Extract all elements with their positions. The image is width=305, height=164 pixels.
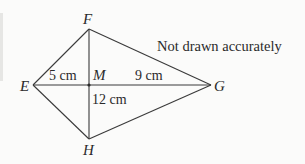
vertex-label-G: G [214,78,225,94]
measurement-MG: 9 cm [135,68,163,83]
vertex-label-H: H [82,142,95,158]
vertex-label-F: F [82,11,93,27]
point-M [87,83,90,86]
measurement-EM: 5 cm [49,68,77,83]
kite-diagram: F E M G H 5 cm 9 cm 12 cm Not drawn accu… [0,0,305,164]
measurement-FH: 12 cm [92,92,127,107]
vertex-label-M: M [92,67,107,83]
vertex-label-E: E [19,78,29,94]
not-drawn-accurately-note: Not drawn accurately [157,38,283,54]
edge-HE [33,85,89,139]
